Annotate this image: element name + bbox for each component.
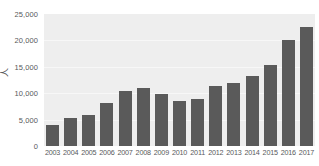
x-tick-label: 2014: [244, 148, 261, 162]
y-tick-label: 15,000: [14, 62, 38, 71]
x-tick-label: 2013: [225, 148, 242, 162]
y-axis: 25,000 20,000 15,000 10,000 5,000 0: [0, 0, 42, 166]
bar-2008: [137, 88, 150, 146]
bar-chart: 25,000 20,000 15,000 10,000 5,000 0 人 20…: [0, 0, 319, 166]
bar-2006: [100, 103, 113, 146]
bar-2011: [191, 99, 204, 146]
bar-2013: [227, 83, 240, 146]
x-tick-label: 2009: [153, 148, 170, 162]
bar-2017: [300, 27, 313, 146]
x-tick-label: 2003: [44, 148, 61, 162]
x-tick-label: 2017: [298, 148, 315, 162]
bar-2003: [46, 125, 59, 146]
x-tick-label: 2006: [98, 148, 115, 162]
y-tick-label: 0: [34, 142, 38, 151]
bar-2015: [264, 65, 277, 146]
y-tick-label: 5,000: [19, 115, 38, 124]
y-tick-label: 20,000: [14, 36, 38, 45]
x-tick-label: 2016: [280, 148, 297, 162]
y-tick-label: 10,000: [14, 89, 38, 98]
bar-2009: [155, 94, 168, 146]
bar-2007: [119, 91, 132, 146]
bar-2005: [82, 115, 95, 146]
bar-2010: [173, 101, 186, 146]
y-axis-title: 人: [1, 68, 10, 77]
bar-2016: [282, 40, 295, 146]
x-tick-label: 2008: [135, 148, 152, 162]
x-axis: 2003 2004 2005 2006 2007 2008 2009 2010 …: [44, 148, 315, 162]
x-tick-label: 2007: [117, 148, 134, 162]
x-tick-label: 2004: [62, 148, 79, 162]
x-tick-label: 2015: [262, 148, 279, 162]
x-tick-label: 2010: [171, 148, 188, 162]
x-tick-label: 2012: [207, 148, 224, 162]
y-tick-label: 25,000: [14, 10, 38, 19]
bars-layer: [44, 14, 315, 146]
bar-2012: [209, 86, 222, 146]
bar-2014: [246, 76, 259, 146]
x-tick-label: 2005: [80, 148, 97, 162]
x-tick-label: 2011: [189, 148, 206, 162]
bar-2004: [64, 118, 77, 147]
